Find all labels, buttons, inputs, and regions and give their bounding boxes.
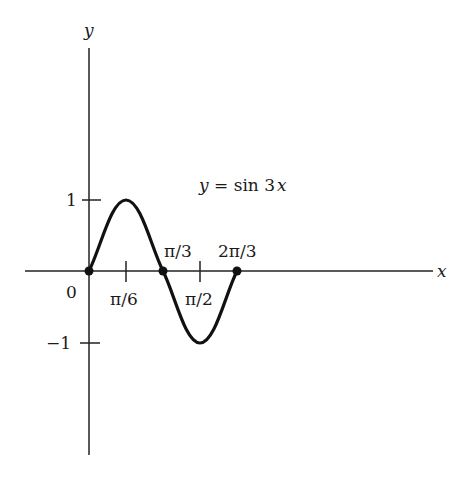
point-pi3 bbox=[159, 267, 168, 276]
sine-graph: y x y = sin 3x 1 −1 0 π/6 π/3 π/2 2π/3 bbox=[0, 0, 470, 478]
y-tick-label-1: 1 bbox=[66, 190, 77, 210]
equation-var: x bbox=[277, 175, 287, 195]
point-origin bbox=[85, 267, 94, 276]
x-axis-label: x bbox=[437, 261, 447, 281]
origin-label: 0 bbox=[66, 282, 77, 302]
equation-rhs: = sin 3 bbox=[209, 175, 275, 195]
point-2pi3 bbox=[233, 267, 242, 276]
y-axis-label: y bbox=[83, 20, 94, 40]
equation-label: y = sin 3x bbox=[198, 175, 287, 195]
x-tick-label-2pi3: 2π/3 bbox=[218, 241, 257, 261]
y-tick-label-minus-1: −1 bbox=[46, 333, 71, 353]
x-tick-label-pi2: π/2 bbox=[185, 289, 213, 309]
x-tick-label-pi3: π/3 bbox=[164, 241, 192, 261]
x-tick-label-pi6: π/6 bbox=[110, 289, 138, 309]
equation-lhs: y bbox=[198, 175, 209, 195]
